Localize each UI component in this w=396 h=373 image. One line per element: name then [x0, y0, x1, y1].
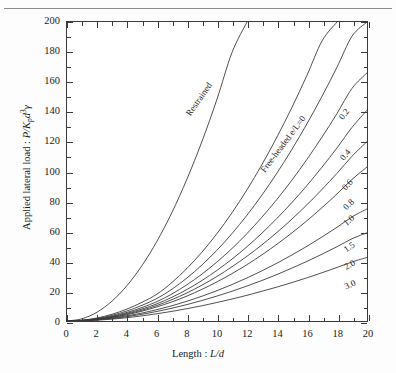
- y-axis-title-symbol2: d: [21, 113, 32, 118]
- x-tick-label: 4: [114, 328, 138, 339]
- x-tick-label: 8: [175, 328, 199, 339]
- y-tick-label: 0: [26, 316, 60, 327]
- x-tick-label: 18: [326, 328, 350, 339]
- y-axis-title-symbol3: γ: [21, 105, 32, 109]
- x-tick-label: 2: [84, 328, 108, 339]
- x-tick-label: 16: [296, 328, 320, 339]
- y-axis-title-prefix: Applied lateral load :: [21, 138, 32, 230]
- y-tick-label: 20: [26, 286, 60, 297]
- figure-root: RestrainedFree-headed e/L=00.20.40.60.81…: [0, 0, 396, 373]
- tick-label-layer: 0204060801001201401601802000246810121416…: [0, 0, 396, 373]
- x-tick-label: 10: [205, 328, 229, 339]
- x-tick-label: 6: [145, 328, 169, 339]
- y-axis-title-symbol: P/K: [21, 122, 32, 138]
- x-axis-title-prefix: Length :: [172, 348, 210, 359]
- x-tick-label: 0: [54, 328, 78, 339]
- y-tick-label: 180: [26, 45, 60, 56]
- y-axis-title-subscript: p: [25, 118, 34, 122]
- x-tick-label: 14: [265, 328, 289, 339]
- chart-figure: RestrainedFree-headed e/L=00.20.40.60.81…: [0, 0, 396, 373]
- x-axis-title-symbol: L/d: [210, 348, 224, 359]
- y-tick-label: 200: [26, 15, 60, 26]
- y-axis-title: Applied lateral load : P/Kpd3γ: [19, 68, 34, 268]
- x-axis-title: Length : L/d: [0, 348, 396, 359]
- x-tick-label: 12: [235, 328, 259, 339]
- x-tick-label: 20: [356, 328, 380, 339]
- y-axis-title-superscript: 3: [19, 109, 28, 113]
